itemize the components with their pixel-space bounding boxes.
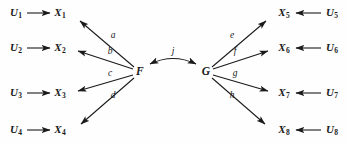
node-u8-subscript: 8 <box>334 128 338 137</box>
node-x2-subscript: 2 <box>62 46 66 55</box>
edge-label-f: f <box>234 47 237 57</box>
node-u3: U3 <box>10 87 22 99</box>
node-x1-subscript: 1 <box>62 11 66 20</box>
node-u4-base: U <box>10 123 18 135</box>
node-x6-subscript: 6 <box>286 46 290 55</box>
edge-label-a: a <box>111 31 116 41</box>
node-u4: U4 <box>10 124 22 136</box>
g-to-x6-arrow <box>213 51 268 69</box>
node-x8-subscript: 8 <box>286 128 290 137</box>
node-x4-base: X <box>54 123 62 135</box>
node-u2-base: U <box>10 41 18 53</box>
node-u2: U2 <box>10 42 22 54</box>
node-u3-base: U <box>10 86 18 98</box>
g-to-x8-arrow <box>212 78 265 124</box>
edge-label-c: c <box>108 69 112 79</box>
node-u6: U6 <box>326 42 338 54</box>
node-x5-subscript: 5 <box>286 11 290 20</box>
diagram-canvas <box>0 0 349 143</box>
node-x2-base: X <box>54 41 62 53</box>
node-u5: U5 <box>326 7 338 19</box>
node-u5-base: U <box>326 6 334 18</box>
node-u7-base: U <box>326 86 334 98</box>
node-x4: X4 <box>54 124 65 136</box>
g-to-x7-arrow <box>213 75 268 91</box>
node-x7: X7 <box>278 87 289 99</box>
right-factor-loading-arrows <box>212 21 268 124</box>
node-x5-base: X <box>278 6 286 18</box>
f-to-x2-arrow <box>78 51 133 69</box>
node-u5-subscript: 5 <box>334 11 338 20</box>
edge-label-h: h <box>230 91 235 101</box>
edge-label-e: e <box>230 31 234 41</box>
f-to-x4-arrow <box>81 78 134 124</box>
node-u8-base: U <box>326 123 334 135</box>
node-x8: X8 <box>278 124 289 136</box>
node-x1: X1 <box>54 7 65 19</box>
edge-label-j: j <box>172 47 175 57</box>
node-x8-base: X <box>278 123 286 135</box>
node-x2: X2 <box>54 42 65 54</box>
factor-node-f: F <box>136 66 144 78</box>
node-x7-subscript: 7 <box>286 91 290 100</box>
path-diagram: F G j U1 U2 U3 U4 X1 X2 X3 X4 a b c d X5… <box>0 0 349 143</box>
node-u8: U8 <box>326 124 338 136</box>
node-u7-subscript: 7 <box>334 91 338 100</box>
edge-label-g: g <box>233 69 238 79</box>
edge-label-b: b <box>108 47 113 57</box>
node-x6: X6 <box>278 42 289 54</box>
node-u1: U1 <box>10 7 22 19</box>
node-u1-subscript: 1 <box>18 11 22 20</box>
node-u7: U7 <box>326 87 338 99</box>
left-factor-loading-arrows <box>78 21 134 124</box>
node-u6-subscript: 6 <box>334 46 338 55</box>
node-x1-base: X <box>54 6 62 18</box>
f-to-x3-arrow <box>78 75 133 91</box>
node-x7-base: X <box>278 86 286 98</box>
node-x3-subscript: 3 <box>62 91 66 100</box>
node-x4-subscript: 4 <box>62 128 66 137</box>
node-u6-base: U <box>326 41 334 53</box>
edge-label-d: d <box>111 91 116 101</box>
node-u1-base: U <box>10 6 18 18</box>
node-u4-subscript: 4 <box>18 128 22 137</box>
factor-node-g: G <box>202 66 211 78</box>
node-x3-base: X <box>54 86 62 98</box>
left-disturbance-arrows <box>27 13 50 130</box>
node-x3: X3 <box>54 87 65 99</box>
node-x6-base: X <box>278 41 286 53</box>
right-disturbance-arrows <box>296 13 321 130</box>
node-u3-subscript: 3 <box>18 91 22 100</box>
node-u2-subscript: 2 <box>18 46 22 55</box>
node-x5: X5 <box>278 7 289 19</box>
factor-correlation-arrow <box>150 59 196 65</box>
